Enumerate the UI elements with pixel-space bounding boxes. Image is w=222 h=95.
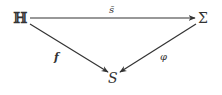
node-sigma: Σ — [198, 10, 208, 26]
node-h: ℍ — [13, 9, 27, 27]
arrow-sigma-to-s — [120, 24, 196, 72]
label-f: f — [53, 51, 61, 64]
node-s: S — [108, 70, 118, 86]
label-phi: φ — [160, 51, 167, 62]
arrow-h-to-s — [30, 24, 108, 72]
label-s-bar: s̄ — [109, 4, 115, 15]
commutative-diagram: ℍ Σ S s̄ f φ — [0, 0, 222, 95]
